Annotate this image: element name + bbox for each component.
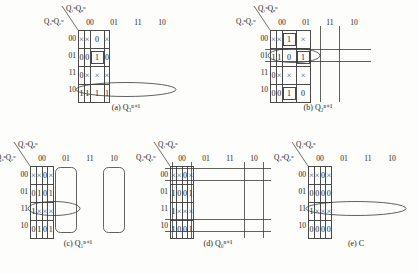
dontcare-icon: × bbox=[85, 31, 90, 48]
cell-value: 1 bbox=[37, 221, 41, 238]
dontcare-icon: × bbox=[95, 67, 100, 84]
col-header-10: 10 bbox=[342, 18, 366, 27]
cell-value: 1 bbox=[37, 185, 41, 202]
row-header-10: 10 bbox=[60, 85, 76, 94]
col-header-01: 01 bbox=[54, 154, 78, 163]
kmap-cell: 1 bbox=[282, 85, 296, 103]
kmap-cell: 1 bbox=[90, 85, 104, 103]
dontcare-icon: × bbox=[188, 203, 193, 220]
cell-value: 1 bbox=[95, 85, 99, 102]
col-header-10: 10 bbox=[242, 154, 266, 163]
cell-value: 0 bbox=[309, 221, 313, 238]
dontcare-icon: × bbox=[301, 31, 306, 48]
kmap-cell: × bbox=[48, 203, 54, 221]
cell-value: 0 bbox=[79, 49, 83, 66]
col-header-10: 10 bbox=[102, 154, 126, 163]
row-header-01: 01 bbox=[152, 187, 168, 196]
kmap-caption-b: (b) Q₂ⁿ⁺¹ bbox=[270, 103, 366, 112]
kmap-row: 0000 bbox=[309, 221, 332, 239]
kmap-cell: 1 bbox=[48, 221, 54, 239]
kmap-grid: ××0×01011×××0101 bbox=[30, 166, 54, 239]
kmap-row: 0××× bbox=[271, 67, 311, 85]
karnaugh-map-figure: Q₁ⁿQ₀ⁿQ₃ⁿQ₂ⁿ0001111000011110××0×00100×××… bbox=[0, 0, 419, 274]
kmap-cell: × bbox=[90, 67, 104, 85]
kmap-cell: 1 bbox=[104, 85, 110, 103]
cell-value: 0 bbox=[327, 185, 331, 202]
cell-value: 0 bbox=[177, 221, 181, 238]
axis-left-label: Q₃ⁿQ₂ⁿ bbox=[136, 153, 155, 162]
col-header-11: 11 bbox=[318, 18, 342, 27]
cell-value: 0 bbox=[321, 221, 325, 238]
dontcare-icon: × bbox=[43, 203, 48, 220]
dontcare-icon: × bbox=[321, 203, 326, 220]
kmap-row: 0101 bbox=[31, 221, 54, 239]
axis-top-label: Q₁ⁿQ₀ⁿ bbox=[296, 140, 315, 149]
kmap-cell: × bbox=[326, 203, 332, 221]
cell-value: 1 bbox=[171, 203, 175, 220]
row-header-00: 00 bbox=[290, 170, 306, 179]
cell-value: 0 bbox=[85, 49, 89, 66]
row-header-00: 00 bbox=[60, 34, 76, 43]
cell-value: 0 bbox=[183, 185, 187, 202]
kmap-grid: ××1×11010×××0010 bbox=[270, 30, 311, 103]
col-header-10: 10 bbox=[380, 154, 404, 163]
cell-value: 0 bbox=[315, 185, 319, 202]
kmap-row: 0010 bbox=[79, 49, 110, 67]
cell-value: 1 bbox=[85, 85, 89, 102]
kmap-row: 1001 bbox=[171, 221, 194, 239]
row-header-01: 01 bbox=[290, 187, 306, 196]
row-header-00: 00 bbox=[12, 170, 28, 179]
cell-value: 0 bbox=[79, 67, 83, 84]
cell-value: 0 bbox=[43, 221, 47, 238]
cell-value: 1 bbox=[49, 221, 53, 238]
kmap-row: 0010 bbox=[271, 85, 311, 103]
row-header-11: 11 bbox=[12, 204, 28, 213]
kmap-grid: ××0×00100×××1111 bbox=[78, 30, 110, 103]
kmap-row: ××0× bbox=[31, 167, 54, 185]
row-header-00: 00 bbox=[152, 170, 168, 179]
col-header-11: 11 bbox=[218, 154, 242, 163]
kmap-cell: 0 bbox=[282, 49, 296, 67]
dontcare-icon: × bbox=[105, 67, 110, 84]
col-header-01: 01 bbox=[194, 154, 218, 163]
cell-value: 1 bbox=[309, 203, 313, 220]
dontcare-icon: × bbox=[277, 31, 282, 48]
dontcare-icon: × bbox=[271, 31, 276, 48]
kmap-row: ××0× bbox=[79, 31, 110, 49]
col-header-11: 11 bbox=[126, 18, 150, 27]
col-header-10: 10 bbox=[150, 18, 174, 27]
row-header-10: 10 bbox=[290, 221, 306, 230]
axis-left-label: Q₃ⁿQ₂ⁿ bbox=[44, 17, 63, 26]
kmap-cell: 1 bbox=[296, 49, 310, 67]
kmap-row: 1101 bbox=[271, 49, 311, 67]
kmap-row: 1001 bbox=[171, 185, 194, 203]
dontcare-icon: × bbox=[85, 67, 90, 84]
axis-top-label: Q₁ⁿQ₀ⁿ bbox=[66, 4, 85, 13]
cell-value: 1 bbox=[189, 221, 193, 238]
dontcare-icon: × bbox=[31, 167, 36, 184]
kmap-row: 1××× bbox=[31, 203, 54, 221]
col-header-00: 00 bbox=[308, 154, 332, 163]
kmap-cell: × bbox=[104, 31, 110, 49]
kmap-grid: ××0×00001×××0000 bbox=[308, 166, 332, 239]
loop-column bbox=[104, 168, 125, 233]
kmap-cell: × bbox=[48, 167, 54, 185]
kmap-caption-c: (c) Q₁ⁿ⁺¹ bbox=[30, 239, 126, 248]
dontcare-icon: × bbox=[315, 203, 320, 220]
kmap-cell: 0 bbox=[104, 49, 110, 67]
cell-value: 1 bbox=[277, 49, 281, 66]
kmap-caption-d: (d) Q₀ⁿ⁺¹ bbox=[170, 239, 266, 248]
col-header-01: 01 bbox=[332, 154, 356, 163]
cell-value: 0 bbox=[309, 185, 313, 202]
row-header-11: 11 bbox=[152, 204, 168, 213]
cell-value: 0 bbox=[43, 185, 47, 202]
row-header-01: 01 bbox=[60, 51, 76, 60]
kmap-cell: 1 bbox=[188, 221, 194, 239]
kmap-cell: 0 bbox=[326, 185, 332, 203]
loop-column bbox=[56, 168, 77, 233]
dontcare-icon: × bbox=[309, 167, 314, 184]
kmap-cell: × bbox=[188, 167, 194, 185]
dontcare-icon: × bbox=[48, 167, 53, 184]
axis-left-label: Q₃ⁿQ₂ⁿ bbox=[0, 153, 15, 162]
row-header-11: 11 bbox=[60, 68, 76, 77]
